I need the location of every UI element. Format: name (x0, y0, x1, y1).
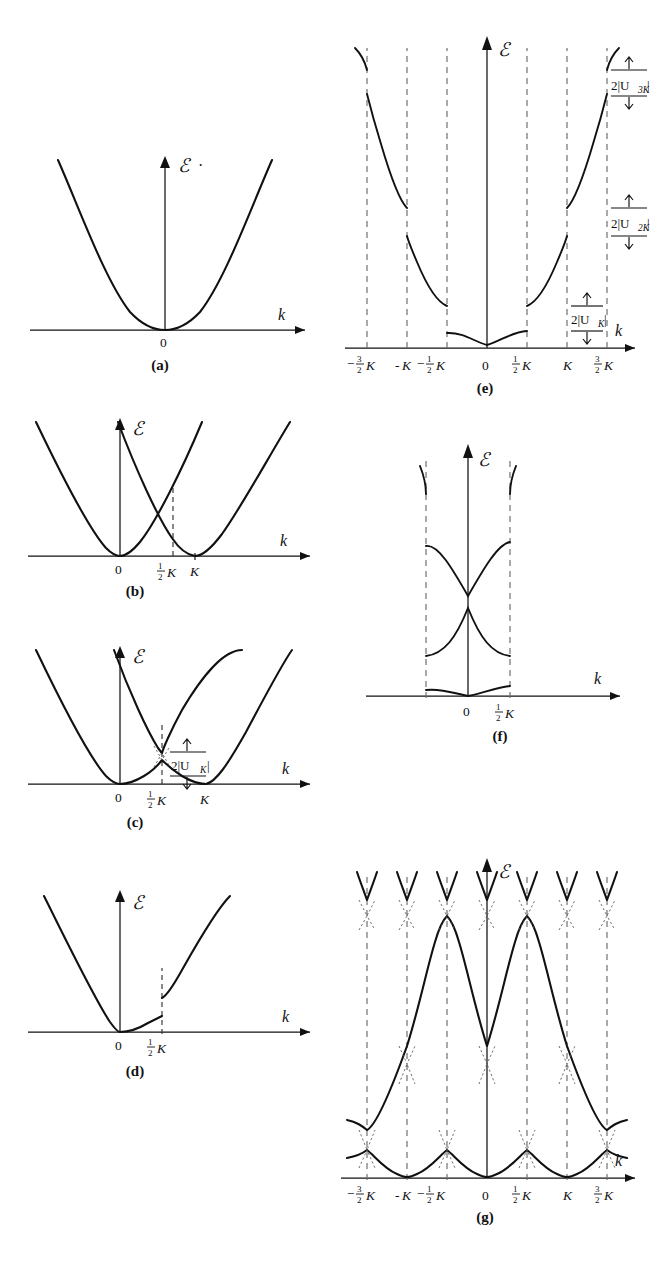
svg-text:2: 2 (496, 713, 501, 723)
svg-text:-: - (395, 1188, 400, 1203)
svg-text:-: - (395, 358, 400, 373)
band3-right-e (567, 94, 607, 208)
tick-label-half-K-d: 1 2 K (147, 1037, 167, 1058)
svg-text:2|U: 2|U (171, 758, 190, 773)
band3-left-e (367, 94, 407, 208)
gap-label-U2K-e: 2|U 2K | (611, 216, 650, 233)
svg-text:2: 2 (427, 365, 432, 375)
svg-text:1: 1 (158, 561, 163, 571)
panel-caption-e: (e) (335, 380, 635, 397)
energy-axis-label-f: ℰ (478, 449, 492, 470)
upper-band-d (162, 896, 230, 998)
svg-text:1: 1 (148, 1037, 153, 1047)
svg-text:2: 2 (595, 1195, 600, 1205)
gap-label-UK-e: 2|U K | (571, 312, 607, 329)
gap2K-arrow-up-e (625, 195, 633, 207)
tick-label-half-K-b: 1 2 K (157, 561, 177, 582)
x-axis-arrow-e (625, 344, 635, 352)
panel-g: ℰ k − 3 2 K - K − 1 2 K 0 1 2 K K 3 (335, 838, 662, 1258)
band2-left-e (407, 236, 447, 306)
x-axis-arrow-a (295, 326, 305, 334)
gap-label-c: 2|U K | (171, 758, 210, 775)
svg-text:3: 3 (357, 354, 362, 364)
tick-label-K-e: K (562, 358, 573, 373)
svg-text:|: | (647, 216, 650, 231)
gapK-arrow-up-e (583, 293, 591, 305)
band4-left-e (355, 48, 367, 70)
svg-text:K: K (603, 358, 614, 373)
band3-at-3half-K-g (597, 872, 617, 900)
svg-text:−: − (417, 1186, 425, 1201)
k-axis-label-e: k (615, 322, 623, 339)
x-axis-arrow-b (300, 552, 310, 560)
panel-e: 2|U K | 2|U 2K | 2|U 3K | ℰ k − 3 2 K (335, 18, 662, 418)
tick-label-zero-e: 0 (482, 358, 489, 373)
tick-label-K-b: K (189, 564, 200, 579)
tick-label-half-K-f: 1 2 K (495, 702, 515, 723)
svg-text:−: − (417, 356, 425, 371)
svg-text:K: K (435, 358, 446, 373)
svg-text:1: 1 (496, 702, 501, 712)
svg-text:K: K (365, 358, 376, 373)
svg-text:K: K (401, 1188, 412, 1203)
k-axis-label-c: k (282, 760, 290, 777)
energy-axis-label-c: ℰ (132, 646, 146, 667)
panel-c-plot: 2|U K | ℰ k 0 1 2 K K (10, 636, 350, 814)
band4-left-f (420, 466, 426, 494)
y-axis-arrow-g (482, 858, 492, 872)
svg-text:|: | (604, 312, 607, 327)
panel-caption-a: (a) (10, 357, 310, 374)
band4-right-f (510, 466, 516, 494)
panel-caption-g: (g) (335, 1209, 635, 1226)
tick-label-zero-d: 0 (115, 1038, 122, 1053)
svg-text:3: 3 (595, 354, 600, 364)
band3-at-minus-K-g (397, 872, 417, 900)
svg-text:K: K (199, 765, 207, 775)
tick-label-K-g: K (562, 1188, 573, 1203)
tick-label-half-K-g: 1 2 K (512, 1184, 532, 1205)
energy-axis-label-g: ℰ (498, 861, 512, 882)
panel-caption-f: (f) (360, 728, 640, 745)
svg-text:2: 2 (148, 800, 153, 810)
tick-label-3half-K-g: 3 2 K (594, 1184, 614, 1205)
svg-text:2: 2 (427, 1195, 432, 1205)
band4-right-e (607, 48, 619, 70)
svg-text:K: K (156, 793, 167, 808)
gap2K-arrow-down-e (625, 237, 633, 249)
tick-label-K-c: K (199, 792, 210, 807)
tick-label-minus-half-K-g: − 1 2 K (417, 1184, 446, 1205)
gap3K-arrow-up-e (625, 57, 633, 69)
tick-label-minus-3half-K-g: − 3 2 K (347, 1184, 376, 1205)
gapK-arrow-down-e (583, 332, 591, 344)
gap-arrow-up-c (183, 739, 191, 751)
tick-label-half-K-c: 1 2 K (147, 789, 167, 810)
panel-d-plot: ℰ k 0 1 2 K (10, 872, 330, 1057)
svg-text:1: 1 (427, 1184, 432, 1194)
k-axis-label-d: k (282, 1008, 290, 1025)
svg-text:2|U: 2|U (611, 78, 630, 93)
svg-text:2|U: 2|U (611, 216, 630, 231)
energy-axis-label-b: ℰ (132, 418, 146, 439)
k-axis-label-f: k (594, 670, 602, 687)
svg-text:K: K (603, 1188, 614, 1203)
y-axis-arrow-f (463, 444, 473, 458)
energy-axis-label-e: ℰ (498, 39, 512, 60)
k-axis-label-b: k (280, 532, 288, 549)
tick-label-minus-K-g: - K (395, 1188, 412, 1203)
svg-text:|: | (207, 758, 210, 773)
tick-label-zero-c: 0 (115, 790, 122, 805)
outer-parabola-right-c (206, 650, 292, 784)
svg-text:K: K (156, 1041, 167, 1056)
svg-text:2: 2 (513, 1195, 518, 1205)
svg-text:2: 2 (158, 572, 163, 582)
svg-text:K: K (521, 1188, 532, 1203)
tick-label-half-K-e: 1 2 K (512, 354, 532, 375)
x-axis-arrow-d (300, 1028, 310, 1036)
svg-text:2|U: 2|U (571, 312, 590, 327)
svg-text:−: − (347, 1186, 355, 1201)
panel-f-plot: ℰ k 0 1 2 K (360, 428, 662, 728)
band3-at-K-g (557, 872, 577, 900)
band3-at-half-K-g (517, 872, 537, 900)
svg-text:1: 1 (513, 354, 518, 364)
svg-text:K: K (365, 1188, 376, 1203)
